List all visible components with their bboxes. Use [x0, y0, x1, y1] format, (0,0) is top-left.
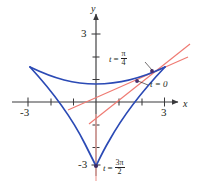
x-tick-label-neg3: -3	[20, 107, 29, 118]
deltoid-curve	[30, 67, 165, 166]
fraction-denominator: 2	[115, 168, 125, 176]
annotation-t-pi-over-4-eq: =	[112, 54, 121, 64]
curve-left-arc	[30, 67, 96, 166]
annotation-t-3pi-over-2-eq: =	[106, 163, 115, 173]
axes-group	[12, 14, 178, 176]
annotation-t-3pi-over-2-fraction: 3π2	[115, 159, 125, 177]
parametric-curve-figure	[0, 0, 200, 192]
x-axis-label: x	[183, 99, 187, 109]
x-tick-label-3: 3	[161, 107, 167, 118]
leader-t-pi-over-4	[145, 62, 152, 70]
y-axis-label: y	[91, 4, 95, 14]
y-tick-label-3: 3	[81, 28, 87, 39]
point-t-3pi-over-2	[94, 164, 98, 168]
annotation-t-zero: t = 0	[150, 80, 168, 89]
annotation-t-pi-over-4: t=π4	[109, 50, 127, 68]
annotation-t-3pi-over-2: t=3π2	[103, 159, 125, 177]
curve-upper-arc	[30, 67, 165, 84]
y-tick-label-neg3: -3	[78, 159, 87, 170]
annotation-t-pi-over-4-fraction: π4	[121, 50, 127, 68]
fraction-denominator: 4	[121, 59, 127, 67]
